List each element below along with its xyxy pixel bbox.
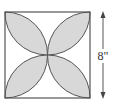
petal-top-right <box>47 12 90 55</box>
petal-bottom-right <box>47 55 90 98</box>
petals <box>5 12 90 98</box>
petal-bottom-left <box>5 55 48 98</box>
arrow-down-icon <box>101 92 106 99</box>
arrow-up-icon <box>101 11 106 18</box>
petal-top-left <box>5 12 48 55</box>
dimension-label: 8" <box>94 49 112 63</box>
